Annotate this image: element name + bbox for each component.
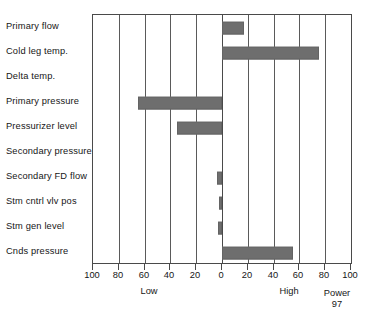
bar-row (93, 90, 351, 115)
power-annotation: Power 97 (312, 288, 362, 310)
bar (222, 246, 293, 259)
category-label: Delta temp. (6, 64, 86, 89)
bar (138, 96, 222, 109)
category-label: Primary pressure (6, 89, 86, 114)
category-axis-labels: Primary flow Cold leg temp. Delta temp. … (0, 14, 88, 264)
category-label: Stm cntrl vlv pos (6, 189, 86, 214)
category-label: Stm gen level (6, 214, 86, 239)
low-caption: Low (124, 286, 174, 296)
category-label: Pressurizer level (6, 114, 86, 139)
bar-row (93, 140, 351, 165)
bar (222, 46, 319, 59)
bar-row (93, 240, 351, 265)
category-label: Secondary pressure (6, 139, 86, 164)
bar-row (93, 190, 351, 215)
category-label: Cold leg temp. (6, 39, 86, 64)
bar (219, 196, 222, 209)
bar (218, 221, 222, 234)
bar-chart: Primary flow Cold leg temp. Delta temp. … (0, 0, 366, 314)
bar (222, 21, 244, 34)
bar-row (93, 215, 351, 240)
power-value: 97 (312, 299, 362, 310)
x-axis-tick-label: 100 (330, 270, 366, 280)
power-label: Power (312, 288, 362, 299)
bar-row (93, 165, 351, 190)
bar-row (93, 15, 351, 40)
category-label: Primary flow (6, 14, 86, 39)
category-label: Secondary FD flow (6, 164, 86, 189)
bar-row (93, 65, 351, 90)
bar-row (93, 115, 351, 140)
bar (217, 171, 222, 184)
category-label: Cnds pressure (6, 239, 86, 264)
high-caption: High (264, 286, 314, 296)
plot-area (92, 14, 352, 264)
bar-row (93, 40, 351, 65)
bar (177, 121, 222, 134)
x-axis-tick-labels: 10080604020020406080100 (0, 270, 366, 284)
